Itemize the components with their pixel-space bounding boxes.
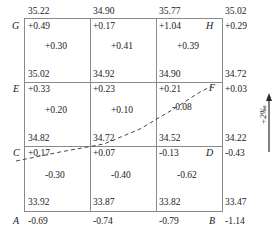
correction-value: -0.79 bbox=[159, 216, 179, 226]
cell-interior-value: +0.10 bbox=[111, 105, 133, 115]
node-value: 34.92 bbox=[93, 69, 114, 79]
node-value: 35.77 bbox=[159, 6, 180, 16]
vertex-label-f: F bbox=[209, 83, 215, 93]
correction-value: -0.13 bbox=[159, 148, 179, 158]
correction-value: -0.43 bbox=[225, 148, 245, 158]
correction-value: +0.33 bbox=[28, 84, 50, 94]
grid-hline-2 bbox=[25, 146, 222, 147]
node-value: 33.87 bbox=[93, 197, 114, 207]
correction-value: +0.21 bbox=[159, 84, 181, 94]
correction-value: +0.49 bbox=[28, 21, 50, 31]
correction-value: -0.74 bbox=[93, 216, 113, 226]
correction-value: +0.23 bbox=[93, 84, 115, 94]
correction-value: +0.17 bbox=[28, 148, 50, 158]
correction-value: +0.07 bbox=[93, 148, 115, 158]
grid-vline-1 bbox=[90, 19, 91, 211]
correction-value: -0.69 bbox=[28, 216, 48, 226]
node-value: 33.92 bbox=[28, 197, 49, 207]
correction-value: +0.03 bbox=[225, 84, 247, 94]
node-value: 34.72 bbox=[93, 133, 114, 143]
node-value: 35.22 bbox=[28, 6, 49, 16]
grid-hline-1 bbox=[25, 82, 222, 83]
vertex-label-e: E bbox=[13, 84, 19, 94]
node-value: 34.72 bbox=[225, 69, 246, 79]
vertex-label-h: H bbox=[206, 21, 213, 31]
node-value: 35.02 bbox=[28, 69, 49, 79]
gradient-value-label: +2‰ bbox=[258, 95, 268, 135]
node-value: 34.82 bbox=[28, 133, 49, 143]
cell-interior-value: +0.39 bbox=[177, 41, 199, 51]
vertex-label-g: G bbox=[12, 21, 19, 31]
cell-interior-value: +0.30 bbox=[45, 41, 67, 51]
vertex-label-b: B bbox=[209, 216, 215, 226]
cell-interior-value: +0.20 bbox=[45, 105, 67, 115]
node-value: 34.90 bbox=[159, 69, 180, 79]
correction-value: +1.04 bbox=[159, 21, 181, 31]
cell-interior-value: -0.08 bbox=[172, 102, 192, 112]
cell-interior-value: -0.40 bbox=[111, 170, 131, 180]
cell-interior-value: +0.41 bbox=[111, 41, 133, 51]
correction-value: +0.29 bbox=[225, 21, 247, 31]
vertex-label-a: A bbox=[13, 216, 19, 226]
grid-vline-2 bbox=[156, 19, 157, 211]
cell-interior-value: -0.62 bbox=[177, 170, 197, 180]
node-value: 33.47 bbox=[225, 197, 246, 207]
vertex-label-c: C bbox=[13, 148, 20, 158]
node-value: 33.82 bbox=[159, 197, 180, 207]
node-value: 34.22 bbox=[225, 133, 246, 143]
node-value: 34.52 bbox=[159, 133, 180, 143]
cell-interior-value: -0.30 bbox=[45, 170, 65, 180]
vertex-label-d: D bbox=[206, 148, 213, 158]
correction-value: +0.17 bbox=[93, 21, 115, 31]
gradient-annotation: +2‰ bbox=[249, 92, 277, 154]
node-value: 34.90 bbox=[93, 6, 114, 16]
figure-root: 35.22 34.90 35.77 35.02 +0.49 +0.17 +1.0… bbox=[0, 0, 278, 236]
correction-value: -1.14 bbox=[225, 216, 245, 226]
node-value: 35.02 bbox=[225, 6, 246, 16]
